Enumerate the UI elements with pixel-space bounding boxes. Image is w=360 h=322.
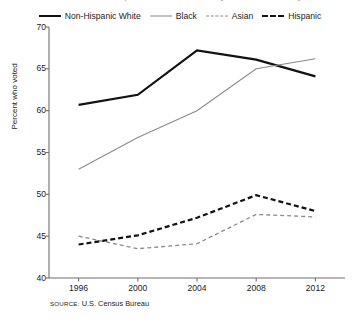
x-axis-tick-label: 2008 (234, 284, 278, 293)
series-line-asian (79, 214, 316, 248)
chart-plot-area (0, 0, 360, 322)
x-axis-tick-label: 2000 (116, 284, 160, 293)
x-axis-tick-label: 2012 (293, 284, 337, 293)
source-text: U.S. Census Bureau (82, 299, 149, 308)
source-note: SOURCE: U.S. Census Bureau (50, 299, 149, 308)
series-line-non-hispanic-white (79, 50, 316, 104)
series-line-hispanic (79, 195, 316, 244)
x-axis-tick-label: 2004 (175, 284, 219, 293)
x-axis-tick-label: 1996 (57, 284, 101, 293)
series-line-black (79, 59, 316, 169)
source-keyword: SOURCE: (50, 300, 80, 307)
chart-figure: Voter turnout in presidential elections … (0, 0, 360, 322)
